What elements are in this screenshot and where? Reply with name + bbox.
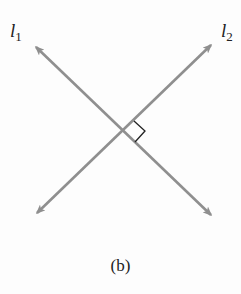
label-l2: l2 xyxy=(221,20,233,45)
figure-caption: (b) xyxy=(0,256,241,276)
label-l1: l1 xyxy=(10,20,22,45)
perpendicular-lines-diagram xyxy=(0,0,241,294)
right-angle-marker xyxy=(134,121,145,142)
line-l2 xyxy=(37,45,211,213)
